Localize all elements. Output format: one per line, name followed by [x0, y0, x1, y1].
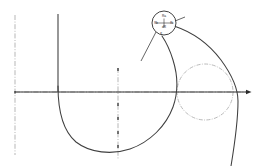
technical-drawing: Ra Rb Rc dR e	[0, 0, 255, 166]
callout-label-rb: Rb	[154, 21, 158, 25]
callout-label-ra: Ra	[162, 14, 166, 18]
detail-callout[interactable]: Ra Rb Rc dR e	[152, 11, 176, 35]
figure-canvas: Ra Rb Rc dR e	[0, 0, 255, 166]
drawing-background	[0, 0, 255, 166]
